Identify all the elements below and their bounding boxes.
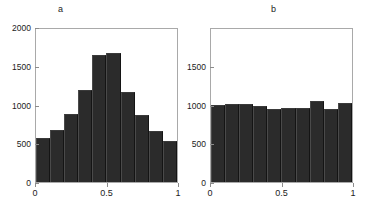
y-axis-label: 1500 (1, 62, 31, 72)
histogram-bar (92, 55, 106, 182)
histogram-bar (225, 104, 239, 182)
histogram-bar (135, 115, 149, 182)
histogram-bar (64, 114, 78, 182)
histogram-bar (149, 131, 163, 182)
y-axis-label: 0 (1, 178, 31, 188)
y-axis-label: 1500 (176, 62, 206, 72)
x-axis-label: 0 (32, 188, 37, 198)
y-axis-tick (210, 144, 214, 145)
y-axis-label: 500 (1, 139, 31, 149)
panel-b-bars (211, 29, 352, 182)
y-axis-label: 1000 (1, 101, 31, 111)
x-axis-tick (353, 183, 354, 187)
histogram-bar (50, 130, 64, 182)
histogram-bar (163, 141, 177, 182)
histogram-bar (338, 103, 352, 182)
x-axis-tick (35, 183, 36, 187)
histogram-bar (324, 109, 338, 182)
histogram-bar (281, 108, 295, 182)
y-axis-tick (35, 106, 39, 107)
histogram-bar (296, 108, 310, 182)
histogram-bar (239, 104, 253, 182)
x-axis-label: 1 (175, 188, 180, 198)
y-axis-tick (35, 67, 39, 68)
panel-a-title: a (0, 4, 152, 14)
x-axis-tick (210, 183, 211, 187)
y-axis-tick (35, 144, 39, 145)
panel-b: b 050010001500 00.51 (183, 0, 366, 213)
histogram-bar (78, 90, 92, 182)
y-axis-tick (210, 106, 214, 107)
histogram-bar (121, 92, 135, 182)
x-axis-label: 0.5 (100, 188, 113, 198)
histogram-bar (310, 101, 324, 182)
x-axis-label: 1 (350, 188, 355, 198)
x-axis-tick (107, 183, 108, 187)
x-axis-label: 0 (207, 188, 212, 198)
panel-a-plot-area (35, 28, 178, 183)
y-axis-label: 2000 (1, 23, 31, 33)
histogram-bar (253, 106, 267, 182)
histogram-figure: a 0500100015002000 00.51 b 050010001500 … (0, 0, 367, 213)
y-axis-label: 0 (176, 178, 206, 188)
y-axis-label: 1000 (176, 101, 206, 111)
y-axis-tick (35, 28, 39, 29)
panel-b-title: b (182, 4, 365, 14)
panel-b-plot-area (210, 28, 353, 183)
x-axis-tick (282, 183, 283, 187)
y-axis-label: 500 (176, 139, 206, 149)
panel-a: a 0500100015002000 00.51 (0, 0, 183, 213)
x-axis-label: 0.5 (275, 188, 288, 198)
histogram-bar (106, 53, 120, 182)
histogram-bar (267, 109, 281, 182)
panel-a-bars (36, 29, 177, 182)
y-axis-tick (210, 67, 214, 68)
